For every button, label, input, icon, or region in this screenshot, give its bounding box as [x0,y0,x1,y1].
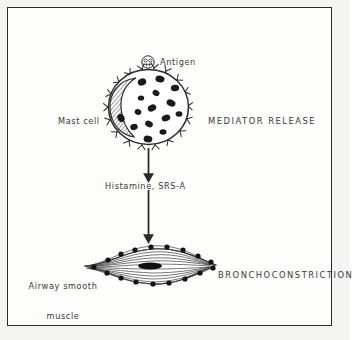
label-mast-cell: Mast cell [58,116,100,126]
antigen-particle-icon [142,56,154,68]
label-airway-smooth-muscle-line1: Airway smooth [24,281,102,291]
label-mediator-release: MEDIATOR RELEASE [208,116,316,127]
figure-frame: Antigen Mast cell MEDIATOR RELEASE Hista… [7,7,332,326]
label-antigen: Antigen [160,57,196,67]
label-histamine: Histamine, SRS-A [105,181,186,191]
smooth-muscle-cell-icon [84,244,216,286]
label-bronchoconstriction: BRONCHOCONSTRICTION [218,270,353,281]
label-airway-smooth-muscle-line2: muscle [24,311,102,321]
label-airway-smooth-muscle: Airway smooth muscle [24,260,102,340]
mast-cell-icon [103,63,192,150]
